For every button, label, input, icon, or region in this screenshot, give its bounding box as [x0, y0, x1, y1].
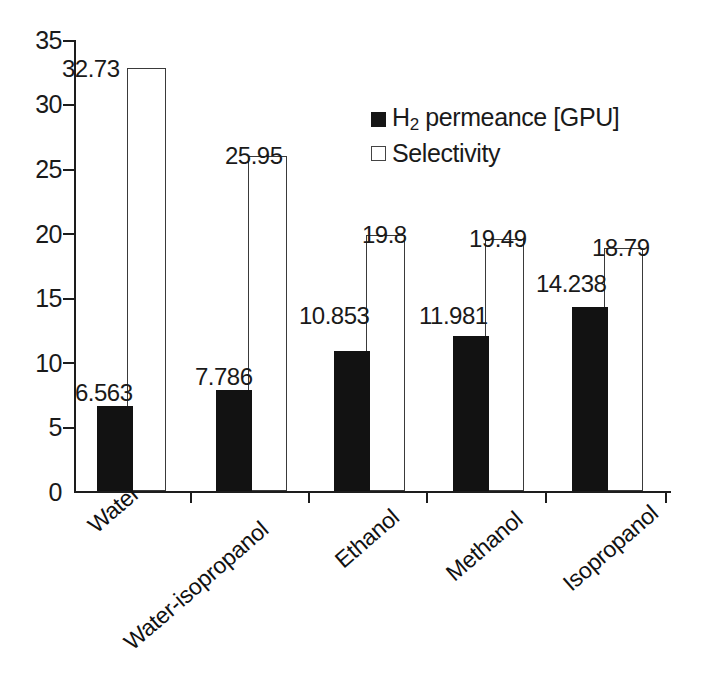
- x-axis-tick-5: [665, 491, 667, 503]
- y-axis-tick-10: [63, 362, 74, 364]
- legend-label-selectivity: Selectivity: [392, 141, 500, 166]
- y-axis-tick-labels: 35 30 25 20 15 10 5 0: [12, 40, 62, 492]
- x-axis-line: [74, 491, 671, 493]
- value-label-selectivity-ethanol: 19.8: [362, 223, 407, 247]
- y-tick-label-0: 0: [20, 480, 62, 505]
- y-tick-label-25: 25: [20, 157, 62, 182]
- bar-selectivity-methanol: [485, 239, 524, 491]
- value-label-h2-permeance-ethanol: 10.853: [299, 304, 369, 328]
- y-tick-label-35: 35: [20, 28, 62, 53]
- legend-item-h2-permeance: H2 permeance [GPU]: [371, 102, 619, 136]
- bar-h2-permeance-water-isopropanol: [216, 390, 252, 491]
- bar-h2-permeance-ethanol: [334, 351, 370, 491]
- category-label-water-isopropanol: Water-isopropanol: [120, 518, 272, 655]
- value-label-selectivity-isopropanol: 18.79: [592, 236, 650, 260]
- y-axis-line: [74, 40, 76, 493]
- bar-h2-permeance-isopropanol: [572, 307, 608, 491]
- bar-selectivity-isopropanol: [604, 248, 643, 491]
- bar-chart-figure: 35 30 25 20 15 10 5 0: [0, 0, 706, 682]
- y-tick-label-30: 30: [20, 92, 62, 117]
- y-tick-label-10: 10: [20, 351, 62, 376]
- y-axis-tick-35: [63, 40, 74, 42]
- y-tick-label-15: 15: [20, 286, 62, 311]
- legend-item-selectivity: Selectivity: [371, 136, 619, 170]
- plot-area: 32.73 25.95 19.8 19.49 18.79 6.563 7.786…: [74, 40, 670, 492]
- y-axis-tick-20: [63, 233, 74, 235]
- bar-selectivity-ethanol: [366, 235, 405, 491]
- legend-swatch-filled-square-icon: [371, 112, 386, 127]
- x-axis-tick-3: [426, 491, 428, 503]
- x-axis-tick-4: [545, 491, 547, 503]
- value-label-h2-permeance-water-isopropanol: 7.786: [195, 365, 253, 389]
- x-axis-tick-1: [190, 491, 192, 503]
- y-axis-tick-15: [63, 298, 74, 300]
- y-axis-tick-25: [63, 169, 74, 171]
- y-axis-tick-30: [63, 104, 74, 106]
- x-axis-tick-2: [308, 491, 310, 503]
- value-label-h2-permeance-methanol: 11.981: [419, 304, 488, 328]
- y-tick-label-20: 20: [20, 222, 62, 247]
- category-label-methanol: Methanol: [442, 507, 527, 585]
- legend-swatch-open-square-icon: [371, 146, 386, 161]
- value-label-selectivity-water: 32.73: [62, 57, 120, 81]
- category-label-isopropanol: Isopropanol: [559, 501, 662, 595]
- legend-label-h2-permeance: H2 permeance [GPU]: [392, 105, 619, 133]
- value-label-h2-permeance-isopropanol: 14.238: [536, 272, 606, 296]
- category-label-ethanol: Ethanol: [331, 505, 403, 572]
- value-label-h2-permeance-water: 6.563: [75, 381, 133, 405]
- chart-legend: H2 permeance [GPU] Selectivity: [371, 102, 619, 170]
- bar-h2-permeance-water: [97, 406, 133, 491]
- bar-selectivity-water-isopropanol: [248, 156, 287, 491]
- y-axis-tick-5: [63, 427, 74, 429]
- y-tick-label-5: 5: [20, 415, 62, 440]
- legend-subscript-2: 2: [410, 115, 419, 134]
- value-label-selectivity-water-isopropanol: 25.95: [225, 144, 283, 168]
- bar-h2-permeance-methanol: [453, 336, 489, 491]
- value-label-selectivity-methanol: 19.49: [469, 227, 527, 251]
